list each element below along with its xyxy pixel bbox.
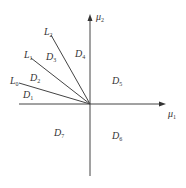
l2-label: L2 [43, 26, 53, 38]
region-d1-label: D1 [22, 89, 33, 101]
region-d6-label: D6 [111, 130, 122, 142]
region-d2-label: D2 [29, 72, 40, 84]
mu2-axis-arrow-icon [88, 14, 93, 21]
l0-label: L0 [9, 75, 19, 87]
region-d7-label: D7 [53, 127, 64, 139]
region-d4-label: D4 [74, 48, 85, 60]
mu2-label: μ2 [95, 11, 104, 23]
line-l2 [51, 35, 90, 104]
mu1-label: μ1 [167, 108, 176, 120]
mu1-axis-arrow-icon [159, 102, 166, 107]
region-diagram: μ2 μ1 L0 L1 L2 D1 D2 D3 D4 D5 D6 D7 [0, 0, 186, 188]
region-d3-label: D3 [45, 51, 56, 63]
region-d5-label: D5 [111, 75, 122, 87]
l1-label: L1 [23, 49, 33, 61]
